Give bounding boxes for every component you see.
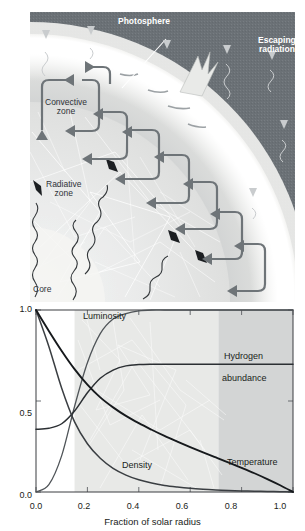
y-axis-tick-label-0-5: 0.5 xyxy=(6,408,32,418)
radiative-zone-label: Radiative zone xyxy=(46,180,81,198)
sun-cross-section-illustration: Escaping radiation xyxy=(30,12,295,302)
x-axis-tick-label-1-0: 1.0 xyxy=(267,501,293,511)
convective-zone-label-line2: zone xyxy=(45,107,87,116)
convective-zone-label: Convective zone xyxy=(45,98,87,116)
y-axis-tick-label-0-0: 0.0 xyxy=(6,490,32,500)
y-axis-tick-label-1-0: 1.0 xyxy=(6,304,32,314)
solar-structure-figure: Escaping radiation Photosphere Convectiv… xyxy=(0,0,305,531)
x-axis-tick-label-0-4: 0.4 xyxy=(120,501,146,511)
x-axis-tick-label-0-2: 0.2 xyxy=(71,501,97,511)
photosphere-label: Photosphere xyxy=(118,17,170,26)
x-axis-title: Fraction of solar radius xyxy=(0,516,305,527)
escaping-radiation-label-line2: radiation xyxy=(258,45,295,54)
solar-profile-chart-graphic xyxy=(0,300,305,531)
hydrogen-abundance-label-line1: Hydrogen xyxy=(224,352,263,362)
sun-cross-section-graphic xyxy=(30,12,295,302)
x-axis-tick-label-0-0: 0.0 xyxy=(23,501,49,511)
temperature-curve-label: Temperature xyxy=(227,458,278,468)
escaping-radiation-label: Escaping radiation xyxy=(258,36,295,54)
radiative-zone-label-line2: zone xyxy=(46,189,81,198)
core-label: Core xyxy=(33,285,51,294)
core-band xyxy=(36,310,75,492)
luminosity-curve-label: Luminosity xyxy=(83,312,126,322)
x-axis-tick-label-0-6: 0.6 xyxy=(169,501,195,511)
hydrogen-abundance-label-line2: abundance xyxy=(222,374,267,384)
solar-profile-chart xyxy=(0,300,305,531)
x-axis-tick-label-0-8: 0.8 xyxy=(218,501,244,511)
density-curve-label: Density xyxy=(122,461,152,471)
